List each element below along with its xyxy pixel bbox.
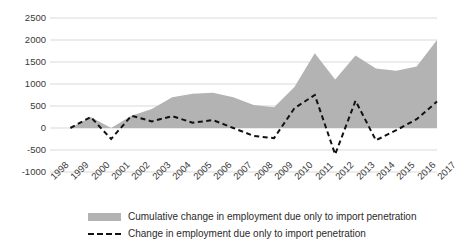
y-axis-tick-label: 0: [2, 123, 46, 133]
legend-item-cumulative: Cumulative change in employment due only…: [0, 208, 458, 225]
y-axis: 25002000150010005000-500-1000: [0, 18, 46, 172]
series-layer: [50, 18, 437, 172]
y-axis-tick-label: 1500: [2, 57, 46, 67]
dashed-line-swatch-icon: [88, 230, 121, 238]
y-axis-tick-label: 500: [2, 101, 46, 111]
y-axis-tick-label: -500: [2, 145, 46, 155]
x-axis-tick-label: 2017: [435, 159, 458, 182]
area-swatch-icon: [88, 213, 121, 221]
chart-legend: Cumulative change in employment due only…: [0, 208, 458, 242]
y-axis-tick-label: -1000: [2, 167, 46, 177]
y-axis-tick-label: 2000: [2, 35, 46, 45]
x-axis: 1998199920002001200220032004200520062007…: [50, 174, 437, 204]
plot-area: [50, 18, 437, 172]
legend-item-change: Change in employment due only to import …: [0, 225, 458, 242]
legend-item-label: Change in employment due only to import …: [128, 228, 366, 239]
y-axis-tick-label: 1000: [2, 79, 46, 89]
chart-container: 25002000150010005000-500-1000 1998199920…: [0, 0, 458, 252]
y-axis-tick-label: 2500: [2, 13, 46, 23]
legend-item-label: Cumulative change in employment due only…: [128, 211, 417, 222]
